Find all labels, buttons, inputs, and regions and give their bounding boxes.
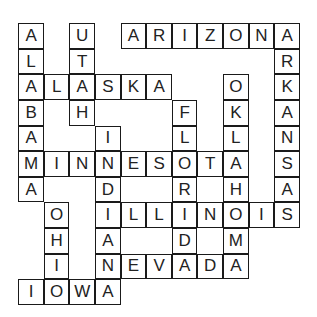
grid-cell[interactable]: I	[172, 202, 198, 228]
grid-cell[interactable]: O	[223, 74, 249, 100]
grid-cell[interactable]: O	[172, 151, 198, 177]
grid-cell[interactable]: A	[18, 74, 44, 100]
grid-cell[interactable]: A	[18, 126, 44, 152]
grid-cell[interactable]: I	[172, 23, 198, 49]
grid-cell[interactable]: L	[146, 202, 172, 228]
grid-cell[interactable]: A	[223, 254, 249, 280]
grid-cell[interactable]: K	[121, 74, 147, 100]
grid-cell[interactable]: O	[223, 202, 249, 228]
grid-cell[interactable]: I	[44, 151, 70, 177]
grid-cell[interactable]: L	[172, 126, 198, 152]
grid-cell[interactable]: I	[95, 126, 121, 152]
grid-cell[interactable]: I	[18, 279, 44, 305]
grid-cell[interactable]: H	[44, 228, 70, 254]
grid-cell[interactable]: L	[18, 49, 44, 75]
grid-cell[interactable]: W	[69, 279, 95, 305]
grid-cell[interactable]: N	[249, 23, 275, 49]
grid-cell[interactable]: O	[44, 202, 70, 228]
grid-cell[interactable]: A	[172, 254, 198, 280]
grid-cell[interactable]: L	[44, 74, 70, 100]
grid-cell[interactable]: M	[223, 228, 249, 254]
grid-cell[interactable]: A	[274, 177, 300, 203]
grid-cell[interactable]: O	[223, 23, 249, 49]
grid-cell[interactable]: I	[249, 202, 275, 228]
grid-cell[interactable]: S	[146, 151, 172, 177]
grid-cell[interactable]: H	[223, 177, 249, 203]
grid-cell[interactable]: E	[121, 254, 147, 280]
grid-cell[interactable]: Z	[197, 23, 223, 49]
grid-cell[interactable]: E	[121, 151, 147, 177]
grid-cell[interactable]: A	[18, 177, 44, 203]
grid-cell[interactable]: A	[274, 23, 300, 49]
grid-cell[interactable]: A	[95, 228, 121, 254]
grid-cell[interactable]: A	[223, 151, 249, 177]
grid-cell[interactable]: A	[274, 100, 300, 126]
grid-cell[interactable]: S	[95, 74, 121, 100]
grid-cell[interactable]: T	[197, 151, 223, 177]
grid-cell[interactable]: R	[274, 49, 300, 75]
grid-cell[interactable]: V	[146, 254, 172, 280]
grid-cell[interactable]: N	[69, 151, 95, 177]
grid-cell[interactable]: N	[95, 254, 121, 280]
grid-cell[interactable]: M	[18, 151, 44, 177]
grid-cell[interactable]: A	[121, 23, 147, 49]
grid-cell[interactable]: A	[95, 279, 121, 305]
grid-cell[interactable]: N	[95, 151, 121, 177]
grid-cell[interactable]: R	[146, 23, 172, 49]
grid-cell[interactable]: S	[274, 151, 300, 177]
grid-cell[interactable]: T	[69, 49, 95, 75]
grid-cell[interactable]: I	[44, 254, 70, 280]
grid-cell[interactable]: K	[223, 100, 249, 126]
grid-cell[interactable]: L	[121, 202, 147, 228]
grid-cell[interactable]: F	[172, 100, 198, 126]
grid-cell[interactable]: I	[95, 202, 121, 228]
grid-cell[interactable]: D	[172, 228, 198, 254]
grid-cell[interactable]: D	[197, 254, 223, 280]
grid-cell[interactable]: S	[274, 202, 300, 228]
grid-cell[interactable]: K	[274, 74, 300, 100]
grid-cell[interactable]: B	[18, 100, 44, 126]
grid-cell[interactable]: L	[223, 126, 249, 152]
grid-cell[interactable]: A	[18, 23, 44, 49]
grid-cell[interactable]: A	[146, 74, 172, 100]
grid-cell[interactable]: A	[69, 74, 95, 100]
grid-cell[interactable]: N	[274, 126, 300, 152]
grid-cell[interactable]: N	[197, 202, 223, 228]
grid-cell[interactable]: R	[172, 177, 198, 203]
grid-cell[interactable]: O	[44, 279, 70, 305]
grid-cell[interactable]: D	[95, 177, 121, 203]
crossword-grid: AUARIZONALTRALASKAOKBHFKAAILLNMINNESOTAS…	[19, 24, 301, 306]
grid-cell[interactable]: H	[69, 100, 95, 126]
grid-cell[interactable]: U	[69, 23, 95, 49]
